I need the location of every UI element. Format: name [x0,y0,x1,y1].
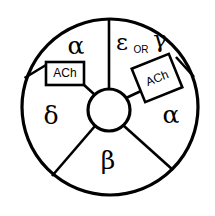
subunit-label-gamma: γ [153,26,167,52]
subunit-label-or-conjunction: OR [134,44,149,55]
central-ion-pore [88,89,130,131]
subunit-label-epsilon: ε [116,29,128,55]
subunit-label-alpha-right: α [163,100,180,129]
receptor-diagram: α ε OR γ α β δ ACh ACh [0,0,215,216]
subunit-label-beta: β [101,146,115,175]
subunit-label-alpha-top-left: α [68,31,85,60]
subunit-label-delta: δ [43,101,58,130]
receptor-schematic-svg: α ε OR γ α β δ ACh ACh [0,0,215,216]
acetylcholine-binding-site-left: ACh [46,62,84,85]
ach-label-left: ACh [53,66,76,80]
